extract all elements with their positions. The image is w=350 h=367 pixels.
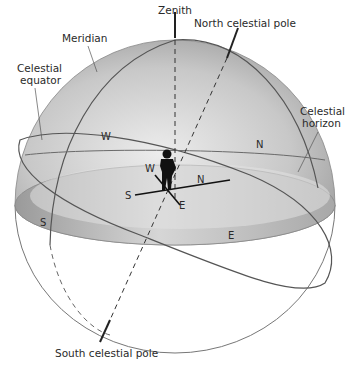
label-celestial-horizon-2: horizon — [302, 117, 341, 129]
dir-equator-west: W — [101, 131, 111, 142]
label-celestial-horizon-1: Celestial — [300, 105, 345, 117]
label-north-celestial-pole: North celestial pole — [194, 17, 296, 29]
south-pole-marker — [100, 320, 110, 342]
label-south-celestial-pole: South celestial pole — [55, 347, 158, 359]
dir-horizon-south: S — [40, 217, 46, 228]
dir-equator-north: N — [256, 139, 263, 150]
dir-observer-west: W — [145, 163, 155, 174]
dir-observer-north: N — [197, 174, 204, 185]
label-celestial-equator-1: Celestial — [17, 62, 62, 74]
label-zenith: Zenith — [158, 4, 192, 16]
dir-observer-south: S — [125, 190, 131, 201]
dir-observer-east: E — [179, 200, 185, 211]
meridian-lower-dashed — [50, 245, 110, 335]
label-meridian: Meridian — [62, 32, 107, 44]
dir-horizon-east: E — [228, 230, 234, 241]
label-celestial-equator-2: equator — [20, 74, 62, 86]
celestial-sphere-diagram: Zenith North celestial pole Meridian Cel… — [0, 0, 350, 367]
